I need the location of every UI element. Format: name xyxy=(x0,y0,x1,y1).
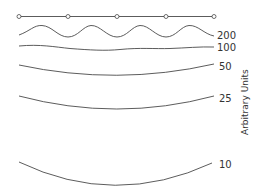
node-marker xyxy=(212,15,216,19)
curve-50 xyxy=(19,64,214,75)
curve-label-10: 10 xyxy=(219,159,232,170)
curve-10 xyxy=(19,162,212,185)
curve-100 xyxy=(19,45,214,50)
curve-25 xyxy=(19,96,214,109)
node-marker xyxy=(17,15,21,19)
curve-label-25: 25 xyxy=(219,93,232,104)
node-marker xyxy=(66,15,70,19)
node-marker xyxy=(164,15,168,19)
curve-label-100: 100 xyxy=(217,42,236,53)
curve-label-50: 50 xyxy=(219,61,232,72)
node-marker xyxy=(115,15,119,19)
string-vibration-diagram: 200 100 50 25 10 Arbitrary Units xyxy=(0,0,254,194)
axis-label: Arbitrary Units xyxy=(240,69,250,135)
node-line xyxy=(17,15,216,19)
curve-label-200: 200 xyxy=(217,30,236,41)
curve-200 xyxy=(19,25,214,37)
